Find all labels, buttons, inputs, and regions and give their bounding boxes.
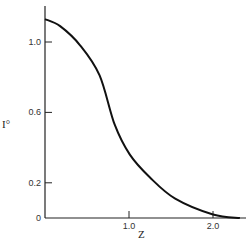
y-tick-label: 0.6 (28, 107, 41, 117)
data-line (45, 19, 240, 218)
x-tick-label: 2.0 (207, 221, 220, 231)
y-tick-label: 1.0 (28, 37, 41, 47)
y-axis-label: I° (2, 118, 10, 130)
x-tick-label: 1.0 (123, 221, 136, 231)
y-tick-label: 0.2 (28, 178, 41, 188)
y-ticks: 00.20.61.0 (28, 37, 52, 223)
y-tick-label: 0 (36, 213, 41, 223)
chart: 00.20.61.0 1.02.0 Z I° (0, 0, 250, 244)
x-axis-label: Z (138, 228, 145, 240)
